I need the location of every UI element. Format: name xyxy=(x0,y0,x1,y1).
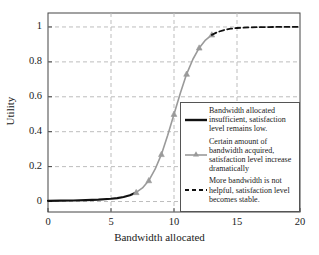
legend-label: Certain amount of bandwidth acquired, sa… xyxy=(209,137,297,174)
x-tick-label: 5 xyxy=(96,216,126,227)
legend-item: Bandwidth allocated insufficient, satisf… xyxy=(183,106,297,134)
legend-label: Bandwidth allocated insufficient, satisf… xyxy=(209,106,297,134)
chart-legend: Bandwidth allocated insufficient, satisf… xyxy=(180,102,300,212)
legend-item: Certain amount of bandwidth acquired, sa… xyxy=(183,137,297,174)
x-tick-label: 10 xyxy=(159,216,189,227)
x-tick-label: 15 xyxy=(222,216,252,227)
legend-swatch-solid-line-icon xyxy=(183,113,209,127)
y-tick-label: 0.4 xyxy=(12,125,42,136)
x-tick-label: 20 xyxy=(285,216,315,227)
x-axis-title: Bandwidth allocated xyxy=(0,231,319,243)
legend-swatch-dashed-line-icon xyxy=(183,183,209,197)
legend-item: More bandwidth is not helpful, satisfact… xyxy=(183,176,297,204)
legend-swatch-marker-line-icon xyxy=(183,148,209,162)
y-tick-label: 1 xyxy=(12,20,42,31)
y-tick-label: 0.6 xyxy=(12,90,42,101)
chart-figure: Bandwidth allocated Utility 05101520 00.… xyxy=(0,0,319,255)
x-tick-label: 0 xyxy=(33,216,63,227)
y-tick-label: 0 xyxy=(12,195,42,206)
y-tick-label: 0.8 xyxy=(12,55,42,66)
legend-label: More bandwidth is not helpful, satisfact… xyxy=(209,176,297,204)
y-tick-label: 0.2 xyxy=(12,160,42,171)
